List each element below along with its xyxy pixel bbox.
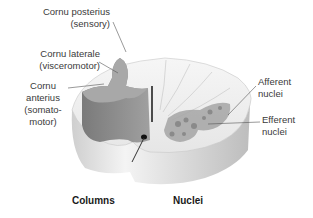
label-line: (visceromotor) [20, 60, 100, 72]
label-line: motor) [20, 116, 66, 128]
label-afferent-nuclei: Afferent nuclei [258, 76, 313, 100]
label-line: nuclei [258, 88, 313, 100]
label-line: Efferent [262, 114, 312, 126]
label-line: nuclei [262, 126, 312, 138]
label-line: (somato- [20, 104, 66, 116]
label-line: Afferent [258, 76, 313, 88]
label-line: anterius [20, 92, 66, 104]
label-efferent-nuclei: Efferent nuclei [262, 114, 312, 138]
label-cornu-anterius: Cornu anterius (somato- motor) [20, 80, 66, 128]
caption-columns: Columns [72, 195, 115, 206]
label-line: (sensory) [28, 18, 110, 30]
caption-nuclei: Nuclei [173, 195, 203, 206]
label-line: Cornu posterius [28, 6, 110, 18]
label-cornu-laterale: Cornu laterale (visceromotor) [20, 48, 100, 72]
label-line: Cornu laterale [20, 48, 100, 60]
spinal-cord-diagram: Cornu posterius (sensory) Cornu laterale… [0, 0, 313, 218]
label-line: Cornu [20, 80, 66, 92]
label-cornu-posterius: Cornu posterius (sensory) [28, 6, 110, 30]
